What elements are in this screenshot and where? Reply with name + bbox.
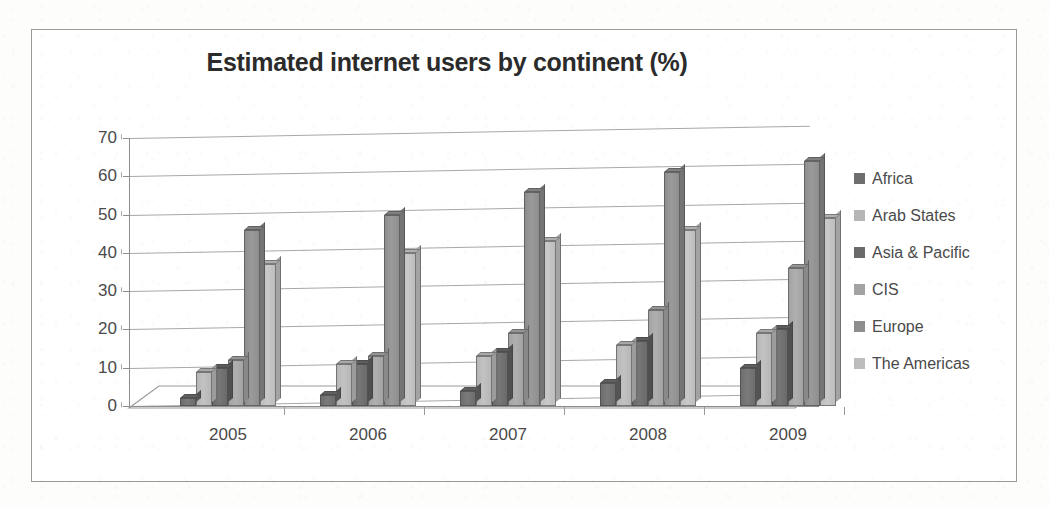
bar-face [600,383,616,406]
x-axis-tick-label: 2009 [728,425,848,445]
bar [320,395,336,406]
x-axis-tick [564,407,565,415]
bar-side-3d [276,256,281,402]
y-axis-tick [123,215,129,216]
y-axis-tick [123,368,129,369]
legend-item-europe: Europe [854,308,1014,345]
x-axis-tick-label: 2006 [308,425,428,445]
legend-swatch [854,321,865,332]
y-axis-tick [123,406,129,407]
bar-side-3d [772,325,777,402]
legend-swatch [854,284,865,295]
legend-label: Europe [872,318,924,336]
legend-item-africa: Africa [854,160,1014,197]
bar-side-3d [680,165,685,402]
legend-label: Arab States [872,207,956,225]
legend-item-asia-pacific: Asia & Pacific [854,234,1014,271]
bar-side-3d [540,184,545,402]
legend-item-the-americas: The Americas [854,345,1014,382]
bar-group [320,106,416,406]
bar-side-3d [508,344,513,402]
scanned-page: Estimated internet users by continent (%… [0,0,1049,506]
legend-label: CIS [872,281,899,299]
bar-side-3d [260,222,265,402]
bar-side-3d [788,322,793,402]
legend-swatch [854,210,865,221]
bar-group [600,106,696,406]
legend-swatch [854,358,865,369]
x-axis-tick-label: 2005 [168,425,288,445]
chart-frame: Estimated internet users by continent (%… [31,29,1017,482]
bar [460,391,476,406]
x-axis-tick [284,407,285,415]
bar-slot [180,106,196,406]
y-axis-tick [123,176,129,177]
x-axis-tick [424,407,425,415]
bar-side-3d [416,245,421,402]
legend-item-arab-states: Arab States [854,197,1014,234]
legend-label: The Americas [872,355,970,373]
bar-side-3d [524,325,529,402]
legend-swatch [854,247,865,258]
x-axis-tick-label: 2007 [448,425,568,445]
bar-side-3d [648,333,653,402]
bar-group [740,106,836,406]
bar-slot [740,106,756,406]
bar-slot [336,106,352,406]
bar [180,398,196,406]
legend-swatch [854,173,865,184]
bar-side-3d [664,302,669,402]
y-axis-tick [123,138,129,139]
bar-slot [616,106,632,406]
bar-side-3d [244,352,249,402]
x-axis-tick-label: 2008 [588,425,708,445]
bar-side-3d [804,260,809,402]
bar-group [460,106,556,406]
bar [196,372,212,406]
bar-slot [476,106,492,406]
bar [600,383,616,406]
chart-legend: AfricaArab StatesAsia & PacificCISEurope… [854,160,1014,382]
bar-face [460,391,476,406]
bar-side-3d [400,207,405,402]
bar-side-3d [836,210,841,402]
y-axis-tick [123,253,129,254]
bar-side-3d [492,348,497,402]
bar-side-3d [384,348,389,402]
bar-side-3d [556,233,561,402]
bar-group [180,106,276,406]
legend-label: Africa [872,170,913,188]
bar-side-3d [696,222,701,402]
bar-side-3d [820,153,825,402]
y-axis-tick [123,329,129,330]
legend-label: Asia & Pacific [872,244,970,262]
bar-face [196,372,212,406]
bar-slot [600,106,616,406]
bar-face [740,368,756,406]
bar-slot [460,106,476,406]
y-axis-tick [123,291,129,292]
bar-slot [196,106,212,406]
bar-side-3d [632,337,637,402]
bar-slot [320,106,336,406]
legend-item-cis: CIS [854,271,1014,308]
bar [740,368,756,406]
bar-face [320,395,336,406]
bar-face [180,398,196,406]
x-axis-tick [704,407,705,415]
bar-slot [212,106,228,406]
x-axis-tick [844,407,845,415]
